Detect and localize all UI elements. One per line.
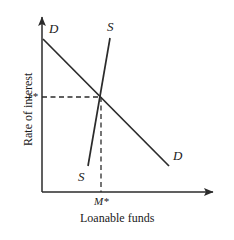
supply-curve-label-bottom: S	[78, 170, 85, 183]
y-axis-title: Rate of interest	[22, 73, 34, 146]
supply-curve-label-top: S	[107, 20, 114, 33]
equilibrium-quantity-label: M*	[94, 196, 109, 207]
demand-curve-label-top: D	[49, 22, 58, 35]
supply-demand-figure: D D S S r* M* Rate of interest Loanable …	[0, 0, 234, 240]
diagram-canvas	[0, 0, 234, 240]
demand-curve-label-bottom: D	[173, 149, 182, 162]
x-axis-title: Loanable funds	[80, 212, 154, 224]
